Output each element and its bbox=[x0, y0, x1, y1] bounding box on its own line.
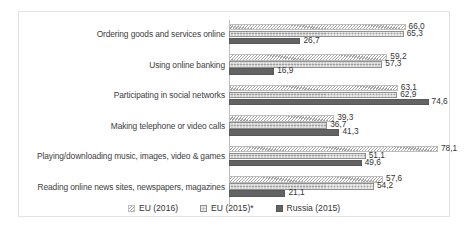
bar-group: 66,065,326,7 bbox=[229, 23, 447, 46]
legend-item-1[interactable]: EU (2015)* bbox=[200, 203, 254, 213]
category-label: Ordering goods and services online bbox=[25, 29, 225, 39]
legend-label: EU (2016) bbox=[139, 203, 178, 213]
bar-value-label: 65,3 bbox=[407, 29, 423, 38]
chart-container: Ordering goods and services online66,065… bbox=[18, 11, 450, 217]
category-label: Participating in social networks bbox=[25, 90, 225, 100]
chart-row: Playing/downloading music, images, video… bbox=[19, 141, 449, 172]
bar-1 bbox=[229, 153, 366, 160]
plot-area: Ordering goods and services online66,065… bbox=[19, 12, 449, 216]
bar-value-label: 26,7 bbox=[303, 36, 319, 45]
bar-group: 39,336,741,3 bbox=[229, 115, 447, 138]
bar-value-label: 54,2 bbox=[377, 181, 393, 190]
bar-0 bbox=[229, 54, 387, 61]
legend-label: Russia (2015) bbox=[287, 203, 341, 213]
legend-item-2[interactable]: Russia (2015) bbox=[276, 203, 341, 213]
legend-item-0[interactable]: EU (2016) bbox=[128, 203, 178, 213]
bar-value-label: 49,6 bbox=[365, 158, 381, 167]
bar-value-label: 16,9 bbox=[277, 66, 293, 75]
bar-value-label: 74,6 bbox=[432, 97, 448, 106]
bar-0 bbox=[229, 85, 398, 92]
bar-0 bbox=[229, 115, 334, 122]
chart-row: Making telephone or video calls39,336,74… bbox=[19, 111, 449, 142]
bar-2 bbox=[229, 160, 362, 167]
category-label: Playing/downloading music, images, video… bbox=[25, 151, 225, 161]
bar-group: 57,654,221,1 bbox=[229, 176, 447, 199]
bar-1 bbox=[229, 122, 327, 129]
bar-value-label: 62,9 bbox=[400, 90, 416, 99]
legend-swatch-icon bbox=[200, 205, 207, 212]
bar-1 bbox=[229, 61, 382, 68]
legend-label: EU (2015)* bbox=[211, 203, 254, 213]
chart-legend: EU (2016)EU (2015)*Russia (2015) bbox=[19, 203, 449, 213]
category-label: Making telephone or video calls bbox=[25, 121, 225, 131]
bar-0 bbox=[229, 176, 383, 183]
legend-swatch-icon bbox=[276, 205, 283, 212]
bar-2 bbox=[229, 190, 285, 197]
bar-value-label: 41,3 bbox=[342, 127, 358, 136]
chart-row: Reading online news sites, newspapers, m… bbox=[19, 172, 449, 203]
category-label: Using online banking bbox=[25, 60, 225, 70]
bar-0 bbox=[229, 24, 406, 31]
bar-value-label: 57,3 bbox=[385, 59, 401, 68]
bar-2 bbox=[229, 38, 300, 45]
bar-2 bbox=[229, 68, 274, 75]
bar-value-label: 78,1 bbox=[441, 144, 457, 153]
bar-group: 63,162,974,6 bbox=[229, 84, 447, 107]
bar-group: 78,151,149,6 bbox=[229, 145, 447, 168]
bar-1 bbox=[229, 92, 397, 99]
legend-swatch-icon bbox=[128, 205, 135, 212]
bar-group: 59,257,316,9 bbox=[229, 54, 447, 77]
bar-0 bbox=[229, 146, 438, 153]
category-label: Reading online news sites, newspapers, m… bbox=[25, 182, 225, 192]
bar-2 bbox=[229, 99, 429, 106]
chart-row: Participating in social networks63,162,9… bbox=[19, 80, 449, 111]
bar-value-label: 21,1 bbox=[288, 188, 304, 197]
bar-2 bbox=[229, 129, 339, 136]
chart-row: Ordering goods and services online66,065… bbox=[19, 19, 449, 50]
chart-row: Using online banking59,257,316,9 bbox=[19, 50, 449, 81]
